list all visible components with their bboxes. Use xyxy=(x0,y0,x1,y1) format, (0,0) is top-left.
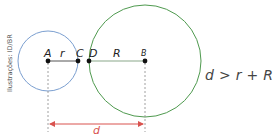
label-c: C xyxy=(76,47,84,60)
inequality-formula: d > r + R xyxy=(205,67,273,83)
label-r: r xyxy=(60,47,66,60)
point-b xyxy=(143,59,148,64)
label-a: A xyxy=(43,47,52,60)
label-distance: d xyxy=(93,124,101,137)
label-d: D xyxy=(89,47,97,60)
diagram-canvas: Ilustrações: ID/BR A r C D R B d d > r +… xyxy=(0,0,278,138)
credit-label: Ilustrações: ID/BR xyxy=(6,34,14,92)
label-b: B xyxy=(141,49,147,58)
label-big-r: R xyxy=(113,47,121,60)
